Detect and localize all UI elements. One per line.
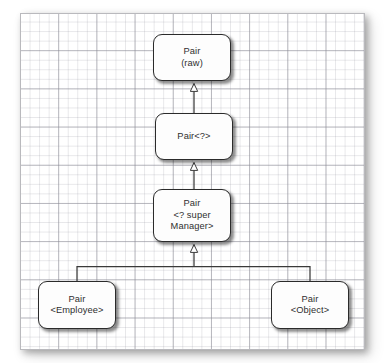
class-node-pair-super-manager[interactable]: Pair <? super Manager> — [153, 189, 231, 242]
class-node-label: Pair <Employee> — [50, 294, 103, 317]
class-node-label: Pair<?> — [177, 131, 210, 142]
class-node-label: Pair (raw) — [181, 46, 203, 69]
class-node-label: Pair <? super Manager> — [171, 198, 214, 232]
class-node-pair-object[interactable]: Pair <Object> — [271, 281, 349, 329]
class-node-pair-wildcard[interactable]: Pair<?> — [155, 113, 233, 160]
uml-class-diagram: Pair (raw) Pair<?> Pair <? super Manager… — [0, 0, 386, 363]
class-node-pair-raw[interactable]: Pair (raw) — [153, 34, 231, 81]
class-node-label: Pair <Object> — [291, 294, 330, 317]
class-node-pair-employee[interactable]: Pair <Employee> — [38, 281, 116, 329]
